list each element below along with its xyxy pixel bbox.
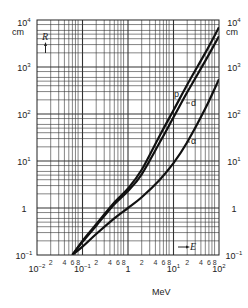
- x-minor-tick-label: 6: [207, 259, 211, 266]
- curve-p: [72, 27, 219, 255]
- y-tick-label: 1: [21, 204, 26, 214]
- x-minor-tick-label: 4: [108, 259, 112, 266]
- x-minor-tick-label: 8: [122, 259, 126, 266]
- y-tick-label: 101: [17, 156, 31, 167]
- range-energy-chart: 104103102101110−1104103102101110−1 10−21…: [0, 0, 248, 308]
- r-arrow-icon: [44, 42, 47, 53]
- x-minor-tick-label: 4: [199, 259, 203, 266]
- x-minor-tick-label: 6: [116, 259, 120, 266]
- e-symbol: E: [189, 241, 196, 252]
- x-minor-tick-label: 6: [70, 259, 74, 266]
- y-tick-label: 1: [231, 204, 236, 214]
- y-unit-right: cm: [226, 27, 238, 37]
- y-tick-label: 102: [17, 109, 31, 120]
- x-minor-tick-label: 4: [62, 259, 66, 266]
- x-minor-tick-label: 4: [153, 259, 157, 266]
- curves: [72, 27, 219, 255]
- y-tick-label: 10−1: [226, 250, 244, 261]
- x-minor-tick-label: 2: [140, 259, 144, 266]
- x-tick-label: 10−2: [29, 263, 47, 274]
- x-minor-tick-label: 6: [161, 259, 165, 266]
- e-arrow-icon: [178, 246, 190, 249]
- x-minor-tick-label: 8: [213, 259, 217, 266]
- y-tick-label: 10−1: [16, 250, 34, 261]
- x-axis-labels: 10−210−111011022468246824682468: [29, 259, 227, 274]
- y-tick-label: 102: [227, 109, 241, 120]
- label-d: d: [191, 98, 196, 108]
- x-unit: MeV: [152, 287, 171, 297]
- x-minor-tick-label: 8: [76, 259, 80, 266]
- y-tick-label: 103: [227, 62, 241, 73]
- y-unit-left: cm: [12, 27, 24, 37]
- label-p: p: [174, 89, 179, 99]
- label-alpha: α: [191, 136, 196, 146]
- x-minor-tick-label: 2: [185, 259, 189, 266]
- y-tick-label: 103: [17, 62, 31, 73]
- y-tick-label: 101: [227, 156, 241, 167]
- x-minor-tick-label: 8: [167, 259, 171, 266]
- x-minor-tick-label: 2: [49, 259, 53, 266]
- x-minor-tick-label: 2: [94, 259, 98, 266]
- x-tick-label: 1: [125, 264, 130, 274]
- r-symbol: R: [41, 31, 48, 42]
